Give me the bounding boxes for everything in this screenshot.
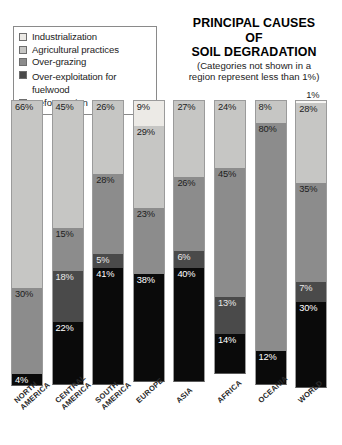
bar-column-oceania[interactable]: 8%80%12% [255, 100, 287, 385]
legend-swatch-industrialization [19, 33, 27, 41]
bar-segment[interactable]: 30% [295, 302, 327, 388]
page-title-line-2: OF [168, 31, 340, 46]
bar-segment-value: 13% [215, 297, 236, 308]
bar-segment-value: 1% [303, 89, 319, 100]
bar-segment-value: 45% [215, 168, 236, 179]
bar-segment-value: 24% [215, 101, 236, 112]
bar-column-north-america[interactable]: 66%30%4% [11, 100, 43, 385]
bar-segment[interactable]: 38% [133, 274, 165, 382]
bar-segment-value: 9% [134, 101, 150, 112]
bar-segment-value: 45% [53, 101, 74, 112]
bar-segment-value: 35% [296, 183, 317, 194]
stacked-bar-chart: 66%30%4%45%15%18%22%26%28%5%41%9%29%23%3… [11, 100, 333, 385]
bar-segment[interactable]: 45% [214, 168, 246, 296]
bar-segment-value: 8% [256, 101, 272, 112]
bar-segment[interactable]: 24% [214, 100, 246, 168]
bar-segment[interactable]: 8% [255, 100, 287, 123]
bar-segment-value: 41% [93, 268, 114, 279]
legend-item-over-exploitation-fuelwood: Over-exploitation for fuelwood [19, 69, 151, 96]
bar-segment[interactable]: 15% [52, 228, 84, 271]
bar-segment-value: 18% [53, 271, 74, 282]
page-title-line-1: PRINCIPAL CAUSES [168, 16, 340, 31]
bar-segment-value: 27% [174, 101, 195, 112]
bar-segment-value: 30% [12, 288, 33, 299]
bar-column-world[interactable]: 1%28%35%7%30% [295, 100, 327, 385]
bar-segment[interactable]: 80% [255, 123, 287, 351]
x-axis-label-asia: ASIA [175, 386, 195, 405]
legend-label-over-grazing: Over-grazing [32, 56, 86, 68]
bar-segment[interactable]: 14% [214, 334, 246, 374]
bar-column-europe[interactable]: 9%29%23%38% [133, 100, 165, 385]
chart-note-line-1: (Categories not shown in a [168, 60, 340, 72]
legend-label-industrialization: Industrialization [32, 31, 97, 43]
bar-segment-value: 15% [53, 228, 74, 239]
bar-segment[interactable]: 26% [92, 100, 124, 174]
bar-segment[interactable]: 13% [214, 297, 246, 334]
bar-segment-value: 28% [296, 103, 317, 114]
bar-segment-value: 40% [174, 268, 195, 279]
bar-segment-value: 23% [134, 208, 155, 219]
legend-swatch-over-exploitation-fuelwood [19, 71, 27, 79]
legend-swatch-agricultural-practices [19, 46, 27, 54]
bar-segment[interactable]: 66% [11, 100, 43, 288]
legend-swatch-over-grazing [19, 58, 27, 66]
x-axis-labels: NORTH AMERICACENTRAL AMERICASOUTH AMERIC… [0, 385, 342, 445]
bar-segment[interactable]: 29% [133, 126, 165, 209]
bar-segment[interactable]: 41% [92, 268, 124, 385]
page-title-line-3: SOIL DEGRADATION [168, 45, 340, 60]
bar-segment-value: 66% [12, 101, 33, 112]
bar-segment[interactable]: 45% [52, 100, 84, 228]
bar-segment[interactable]: 35% [295, 183, 327, 283]
legend-label-agricultural-practices: Agricultural practices [32, 44, 119, 56]
legend-label-over-exploitation-fuelwood: Over-exploitation for [32, 71, 116, 82]
bar-segment[interactable]: 6% [173, 251, 205, 268]
legend-item-industrialization: Industrialization [19, 31, 151, 43]
bar-segment-value: 4% [12, 374, 28, 385]
bar-segment-value: 30% [296, 302, 317, 313]
bar-segment[interactable]: 7% [295, 282, 327, 302]
bar-segment-value: 26% [174, 177, 195, 188]
bar-segment[interactable]: 28% [92, 174, 124, 254]
bar-column-africa[interactable]: 24%45%13%14% [214, 100, 246, 385]
bar-segment-value: 5% [93, 254, 109, 265]
bar-segment[interactable]: 18% [52, 271, 84, 322]
bar-segment-value: 14% [215, 334, 236, 345]
bar-segment[interactable]: 9% [133, 100, 165, 126]
bar-segment-value: 38% [134, 274, 155, 285]
bar-segment[interactable]: 27% [173, 100, 205, 177]
bar-column-south-america[interactable]: 26%28%5%41% [92, 100, 124, 385]
bar-segment-value: 26% [93, 101, 114, 112]
bar-segment-value: 29% [134, 126, 155, 137]
bar-segment[interactable]: 40% [173, 268, 205, 382]
chart-title-block: PRINCIPAL CAUSES OF SOIL DEGRADATION (Ca… [168, 16, 340, 83]
bar-segment[interactable]: 28% [295, 103, 327, 183]
bar-segment[interactable]: 26% [173, 177, 205, 251]
bar-segment[interactable]: 23% [133, 208, 165, 274]
legend-item-over-grazing: Over-grazing [19, 56, 151, 68]
bar-column-central-america[interactable]: 45%15%18%22% [52, 100, 84, 385]
bar-segment-value: 7% [296, 282, 312, 293]
bar-column-asia[interactable]: 27%26%6%40% [173, 100, 205, 385]
bar-segment-value: 22% [53, 322, 74, 333]
bar-segment-value: 12% [256, 351, 277, 362]
chart-note-line-2: region represent less than 1%) [168, 71, 340, 83]
bar-segment[interactable]: 5% [92, 254, 124, 268]
bar-segment[interactable]: 30% [11, 288, 43, 374]
bar-segment-value: 6% [174, 251, 190, 262]
bar-segment-value: 28% [93, 174, 114, 185]
legend-item-agricultural-practices: Agricultural practices [19, 44, 151, 56]
legend-label-over-exploitation-fuelwood-cont: fuelwood [32, 84, 70, 95]
bar-segment-value: 80% [256, 123, 277, 134]
